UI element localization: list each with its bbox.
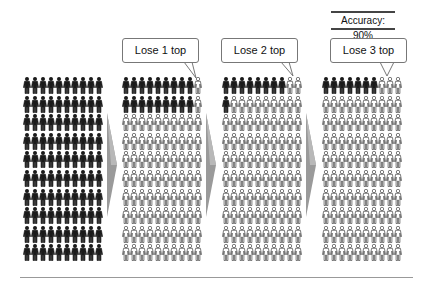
callout-label: Lose 1 top xyxy=(122,38,199,63)
callout-label: Lose 2 top xyxy=(221,38,298,63)
callout-lose-2: Lose 2 top xyxy=(221,38,298,63)
callout-lose-3: Lose 3 top xyxy=(330,38,407,63)
baseline-divider xyxy=(20,277,413,278)
callout-lose-1: Lose 1 top xyxy=(122,38,199,63)
callout-label: Lose 3 top xyxy=(330,38,407,63)
